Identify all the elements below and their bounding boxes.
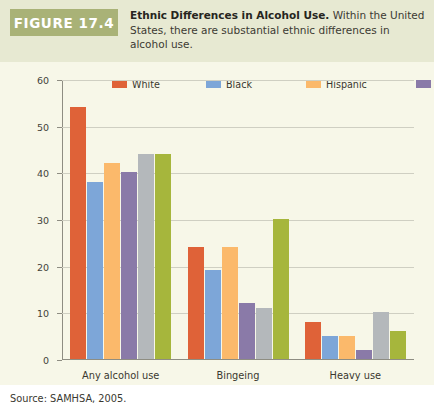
figure-footer: Source: SAMHSA, 2005. — [0, 385, 434, 417]
bar-group: Heavy use — [305, 80, 406, 359]
y-axis-tick: 40 — [57, 173, 62, 174]
y-axis-tick: 20 — [57, 267, 62, 268]
bar[interactable] — [138, 154, 154, 359]
x-axis-tick-label: Any alcohol use — [70, 370, 171, 381]
bar[interactable] — [222, 247, 238, 359]
bar[interactable] — [239, 303, 255, 359]
y-axis-tick: 30 — [57, 220, 62, 221]
bar[interactable] — [121, 172, 137, 359]
bar[interactable] — [273, 219, 289, 359]
figure-caption: Ethnic Differences in Alcohol Use. Withi… — [130, 8, 426, 52]
bar-group: Any alcohol use — [70, 80, 171, 359]
x-axis-tick-label: Heavy use — [305, 370, 406, 381]
bar[interactable] — [104, 163, 120, 359]
bar-group: Bingeing — [188, 80, 289, 359]
x-axis-line — [62, 359, 414, 360]
bar[interactable] — [205, 270, 221, 359]
bar[interactable] — [87, 182, 103, 359]
chart-figure: WhiteBlackHispanicAsianNative AmericanMu… — [0, 62, 434, 385]
bar[interactable] — [322, 336, 338, 359]
source-note: Source: SAMHSA, 2005. — [10, 393, 126, 404]
y-axis-tick-label: 20 — [37, 261, 49, 272]
y-axis-tick-label: 60 — [37, 75, 49, 86]
legend-item[interactable]: Asian — [416, 76, 434, 92]
chart-panel: WhiteBlackHispanicAsianNative AmericanMu… — [0, 62, 434, 385]
x-axis-tick-label: Bingeing — [188, 370, 289, 381]
y-axis-tick-label: 0 — [43, 355, 49, 366]
y-axis-tick-label: 30 — [37, 215, 49, 226]
bar[interactable] — [339, 336, 355, 359]
y-axis-tick: 50 — [57, 127, 62, 128]
plot-area: Percentage 0102030405060Any alcohol useB… — [62, 80, 414, 360]
y-axis-tick-label: 10 — [37, 308, 49, 319]
y-axis-tick: 60 — [57, 80, 62, 81]
y-axis-tick-label: 50 — [37, 121, 49, 132]
legend-swatch-icon — [416, 80, 431, 88]
y-axis-tick-label: 40 — [37, 168, 49, 179]
bar[interactable] — [390, 331, 406, 359]
bar[interactable] — [305, 322, 321, 359]
bar[interactable] — [188, 247, 204, 359]
figure-number-tag: FIGURE 17.4 — [10, 9, 118, 36]
y-axis-tick: 10 — [57, 313, 62, 314]
figure-header: FIGURE 17.4 Ethnic Differences in Alcoho… — [0, 0, 434, 62]
bar[interactable] — [356, 350, 372, 359]
bar[interactable] — [373, 312, 389, 359]
bar[interactable] — [256, 308, 272, 359]
y-axis-tick: 0 — [57, 360, 62, 361]
bar[interactable] — [70, 107, 86, 359]
caption-title: Ethnic Differences in Alcohol Use. — [130, 9, 329, 21]
bar[interactable] — [155, 154, 171, 359]
